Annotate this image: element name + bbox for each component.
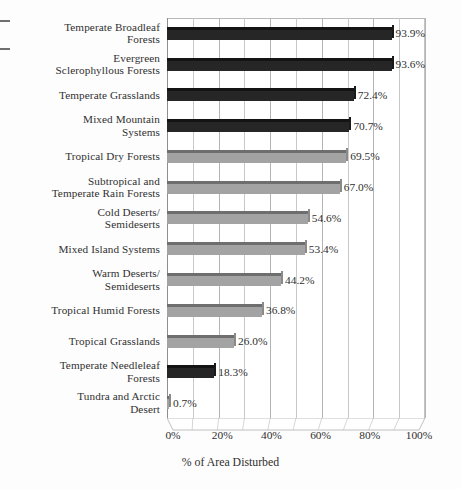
bar-end-face — [234, 333, 236, 346]
bar-value-label: 18.3% — [218, 366, 247, 378]
bar-value-label: 54.6% — [312, 212, 341, 224]
bar-top-face — [167, 273, 281, 276]
bar-end-face — [305, 240, 307, 253]
category-label: Warm Deserts/Semideserts — [8, 267, 160, 292]
bar-container: 54.6% — [167, 203, 425, 234]
bar-top-face — [167, 119, 349, 122]
category-label: Cold Deserts/Semideserts — [8, 206, 160, 231]
bar-container: 18.3% — [167, 356, 425, 387]
category-label-line: Evergreen — [8, 52, 160, 64]
bar-value-label: 44.2% — [285, 274, 314, 286]
chart-row: Mixed Island Systems53.4% — [0, 233, 461, 264]
category-label: Temperate BroadleafForests — [8, 21, 160, 46]
chart-row: Temperate BroadleafForests93.9% — [0, 18, 461, 49]
bar[interactable] — [167, 88, 354, 101]
bar-container: 93.9% — [167, 18, 425, 49]
bar-container: 26.0% — [167, 326, 425, 357]
bar[interactable] — [167, 150, 346, 163]
chart-row: Tundra and ArcticDesert0.7% — [0, 387, 461, 418]
bar-container: 53.4% — [167, 233, 425, 264]
bar-end-face — [262, 302, 264, 315]
category-label-line: Temperate Rain Forests — [8, 187, 160, 199]
bar-top-face — [167, 335, 234, 338]
bar-value-label: 0.7% — [173, 397, 197, 409]
chart-row: Mixed MountainSystems70.7% — [0, 110, 461, 141]
x-tick-label: 60% — [310, 429, 331, 441]
chart-figure: Temperate BroadleafForests93.9%Evergreen… — [0, 0, 461, 489]
bar-value-label: 67.0% — [344, 181, 373, 193]
x-tick-label: 80% — [359, 429, 380, 441]
category-label-line: Warm Deserts/ — [8, 267, 160, 279]
category-label: Tropical Grasslands — [8, 335, 160, 347]
category-label-line: Temperate Grasslands — [8, 89, 160, 101]
bar-value-label: 69.5% — [350, 150, 379, 162]
category-label: Subtropical andTemperate Rain Forests — [8, 175, 160, 200]
bar-top-face — [167, 27, 392, 30]
category-label: Tundra and ArcticDesert — [8, 390, 160, 415]
category-label-line: Tundra and Arctic — [8, 390, 160, 402]
bar-end-face — [281, 271, 283, 284]
bar-container: 36.8% — [167, 295, 425, 326]
category-label-line: Forests — [8, 372, 160, 384]
bar-container: 72.4% — [167, 80, 425, 111]
bar[interactable] — [167, 58, 392, 71]
bar[interactable] — [167, 27, 392, 40]
category-label-line: Semideserts — [8, 280, 160, 292]
category-label-line: Desert — [8, 403, 160, 415]
chart-row: Tropical Grasslands26.0% — [0, 326, 461, 357]
bar-end-face — [308, 209, 310, 222]
bar[interactable] — [167, 304, 262, 317]
x-axis-tick-labels: 0%20%40%60%80%100% — [0, 429, 461, 445]
bar-end-face — [169, 394, 171, 407]
chart-row: Tropical Dry Forests69.5% — [0, 141, 461, 172]
bar-top-face — [167, 88, 354, 91]
bar-top-face — [167, 365, 214, 368]
bar-container: 0.7% — [167, 387, 425, 418]
chart-row: Temperate Grasslands72.4% — [0, 80, 461, 111]
category-label: Tropical Dry Forests — [8, 150, 160, 162]
bar-value-label: 72.4% — [358, 89, 387, 101]
bar-top-face — [167, 211, 308, 214]
bar-top-face — [167, 242, 305, 245]
chart-row: Cold Deserts/Semideserts54.6% — [0, 203, 461, 234]
bar[interactable] — [167, 365, 214, 378]
category-label-line: Subtropical and — [8, 175, 160, 187]
category-label: Tropical Humid Forests — [8, 304, 160, 316]
category-label-line: Forests — [8, 33, 160, 45]
bar-top-face — [167, 150, 346, 153]
bar[interactable] — [167, 181, 340, 194]
bar[interactable] — [167, 119, 349, 132]
chart-row: EvergreenSclerophyllous Forests93.6% — [0, 49, 461, 80]
chart-row: Warm Deserts/Semideserts44.2% — [0, 264, 461, 295]
category-label-line: Tropical Humid Forests — [8, 304, 160, 316]
bar[interactable] — [167, 211, 308, 224]
bar-end-face — [354, 86, 356, 99]
bar[interactable] — [167, 242, 305, 255]
bar-end-face — [346, 148, 348, 161]
bar[interactable] — [167, 273, 281, 286]
bar[interactable] — [167, 396, 169, 409]
bar-container: 93.6% — [167, 49, 425, 80]
bar-end-face — [214, 363, 216, 376]
bar-top-face — [167, 58, 392, 61]
category-label: Mixed MountainSystems — [8, 113, 160, 138]
bar-value-label: 36.8% — [266, 304, 295, 316]
category-label-line: Temperate Needleleaf — [8, 359, 160, 371]
x-tick-label: 0% — [165, 429, 180, 441]
bar-end-face — [340, 179, 342, 192]
bar-top-face — [167, 181, 340, 184]
x-axis-title: % of Area Disturbed — [0, 455, 461, 470]
bar-value-label: 53.4% — [309, 243, 338, 255]
x-tick-label: 100% — [406, 429, 433, 441]
bar-value-label: 93.9% — [396, 27, 425, 39]
bar-end-face — [392, 25, 394, 38]
bar[interactable] — [167, 335, 234, 348]
bar-end-face — [392, 56, 394, 69]
bar-container: 67.0% — [167, 172, 425, 203]
bar-container: 70.7% — [167, 110, 425, 141]
category-label-line: Mixed Mountain — [8, 113, 160, 125]
x-tick-label: 20% — [212, 429, 233, 441]
category-label-line: Semideserts — [8, 218, 160, 230]
category-label-line: Systems — [8, 126, 160, 138]
bar-rows: Temperate BroadleafForests93.9%Evergreen… — [0, 18, 461, 418]
